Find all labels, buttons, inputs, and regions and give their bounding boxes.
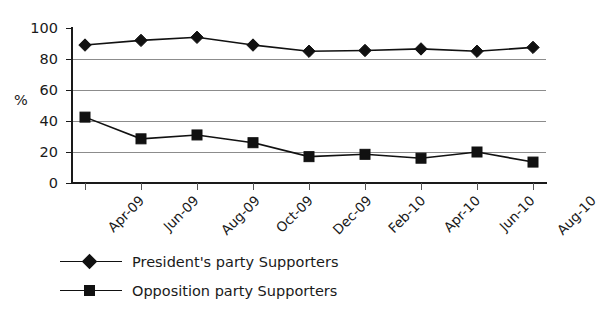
x-tick-label-jun-10: Jun-10 bbox=[497, 193, 537, 233]
gridline-80 bbox=[72, 59, 546, 60]
x-tick-mark-6 bbox=[421, 183, 422, 190]
x-tick-label-aug-09: Aug-09 bbox=[218, 193, 262, 237]
gridline-60 bbox=[72, 90, 546, 91]
legend-item-presidents-party: President's party Supporters bbox=[60, 247, 460, 276]
legend-item-opposition-party: Opposition party Supporters bbox=[60, 276, 460, 305]
x-tick-label-oct-09: Oct-09 bbox=[273, 193, 315, 235]
legend-label-presidents-party: President's party Supporters bbox=[132, 254, 338, 270]
x-tick-mark-1 bbox=[141, 183, 142, 190]
x-tick-mark-3 bbox=[253, 183, 254, 190]
diamond-marker-icon bbox=[60, 253, 122, 271]
y-tick-label-0: 0 bbox=[0, 176, 58, 191]
y-axis-line bbox=[71, 27, 73, 183]
x-tick-mark-8 bbox=[533, 183, 534, 190]
x-tick-mark-4 bbox=[309, 183, 310, 190]
x-tick-mark-7 bbox=[477, 183, 478, 190]
x-tick-mark-5 bbox=[365, 183, 366, 190]
x-tick-mark-0 bbox=[85, 183, 86, 190]
x-tick-label-feb-10: Feb-10 bbox=[385, 193, 427, 235]
y-tick-label-80: 80 bbox=[0, 52, 58, 67]
square-marker-icon bbox=[60, 282, 122, 300]
plot-area bbox=[72, 28, 546, 182]
x-tick-label-apr-10: Apr-10 bbox=[441, 193, 482, 234]
gridline-40 bbox=[72, 121, 546, 122]
x-tick-label-apr-09: Apr-09 bbox=[105, 193, 146, 234]
legend-label-opposition-party: Opposition party Supporters bbox=[132, 283, 337, 299]
y-tick-label-20: 20 bbox=[0, 145, 58, 160]
x-tick-label-aug-10: Aug-10 bbox=[554, 193, 598, 237]
x-tick-label-jun-09: Jun-09 bbox=[161, 193, 201, 233]
y-axis-tick-labels: 100 80 60 40 20 0 bbox=[0, 0, 64, 314]
y-tick-label-40: 40 bbox=[0, 114, 58, 129]
gridline-20 bbox=[72, 152, 546, 153]
chart-legend: President's party Supporters Opposition … bbox=[60, 247, 460, 305]
x-tick-mark-2 bbox=[197, 183, 198, 190]
y-tick-label-60: 60 bbox=[0, 83, 58, 98]
x-tick-label-dec-09: Dec-09 bbox=[330, 193, 374, 237]
y-tick-label-100: 100 bbox=[0, 21, 58, 36]
